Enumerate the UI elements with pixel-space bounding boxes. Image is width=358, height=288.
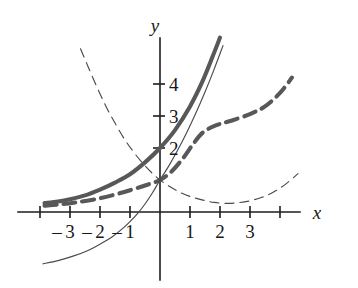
x-tick-label: 3 bbox=[245, 221, 255, 242]
axes-group bbox=[18, 38, 300, 280]
y-axis-label: y bbox=[149, 15, 160, 36]
y-tick-label: 4 bbox=[169, 74, 179, 95]
x-tick-label: 2 bbox=[215, 221, 225, 242]
x-tick-label: 1 bbox=[125, 221, 135, 242]
coordinate-plot: 321123–––234 x y bbox=[0, 0, 358, 288]
y-tick-label: 2 bbox=[169, 138, 179, 159]
curve-thick-solid-growth bbox=[45, 38, 221, 203]
x-tick-label: 3 bbox=[65, 221, 75, 242]
x-axis-label: x bbox=[312, 202, 322, 223]
x-tick-negative-sign: – bbox=[81, 221, 92, 242]
y-tick-label: 3 bbox=[169, 106, 179, 127]
x-tick-negative-sign: – bbox=[51, 221, 62, 242]
x-tick-label: 2 bbox=[95, 221, 105, 242]
x-tick-negative-sign: – bbox=[111, 221, 122, 242]
x-tick-label: 1 bbox=[185, 221, 195, 242]
tick-labels-group: 321123–––234 bbox=[51, 74, 255, 242]
graph-figure: 321123–––234 x y bbox=[0, 0, 358, 288]
